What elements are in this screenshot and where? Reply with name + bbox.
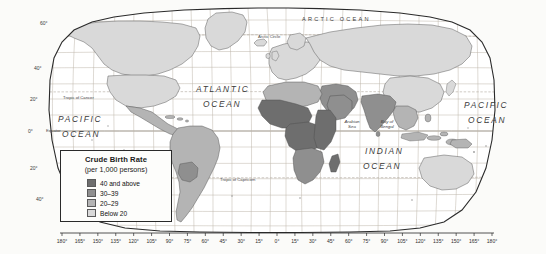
legend-entries: 40 and above30–3920–29Below 20	[87, 178, 171, 218]
legend-entry: Below 20	[87, 208, 171, 218]
world-map-figure: ARCTIC OCEANATLANTICOCEANPACIFICOCEANPAC…	[0, 0, 546, 254]
legend-subtitle: (per 1,000 persons)	[61, 165, 171, 174]
legend-entry: 40 and above	[87, 178, 171, 188]
legend-entry-label: Below 20	[100, 210, 127, 217]
legend-entry: 30–39	[87, 188, 171, 198]
land-sri-lanka	[376, 131, 380, 136]
legend-swatch	[87, 199, 96, 207]
legend-title: Crude Birth Rate	[61, 155, 171, 164]
legend-swatch	[87, 179, 96, 187]
legend-swatch	[87, 189, 96, 197]
legend-entry: 20–29	[87, 198, 171, 208]
legend-entry-label: 20–29	[100, 200, 118, 207]
legend-entry-label: 30–39	[100, 190, 118, 197]
legend-swatch	[87, 209, 96, 217]
map-legend: Crude Birth Rate (per 1,000 persons) 40 …	[60, 150, 172, 222]
legend-entry-label: 40 and above	[100, 180, 140, 187]
